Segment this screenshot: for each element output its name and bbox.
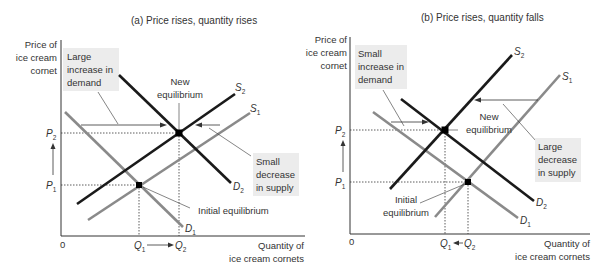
panel-a-supply-label-2: decrease	[256, 169, 295, 180]
panel-b-d1-label: D1	[520, 215, 531, 228]
panel-b-supply-label-3: in supply	[538, 167, 576, 178]
panel-a-demand-label-3: demand	[67, 77, 101, 88]
panel-b-y-label-1: Price of	[315, 34, 348, 45]
panel-a-supply-label-3: in supply	[256, 182, 294, 193]
panel-b-initial-equilibrium-point	[465, 179, 471, 185]
panel-b-initial-eq-label-1: Initial	[395, 194, 417, 205]
panel-a-initial-equilibrium-point	[136, 182, 142, 188]
panel-a-title: (a) Price rises, quantity rises	[131, 15, 257, 26]
panel-a-x-label-2: ice cream cornets	[229, 253, 304, 264]
panel-b-new-equilibrium-point	[442, 127, 449, 134]
panel-a-s1-label: S1	[250, 103, 261, 116]
panel-a-p2-label: P2	[46, 128, 57, 141]
panel-b-demand-label-3: demand	[358, 74, 392, 85]
panel-b-supply-label-1: Large	[538, 141, 562, 152]
panel-b-q1-label: Q1	[440, 238, 452, 251]
panel-b-x-label-1: Quantity of	[544, 238, 590, 249]
panel-b-x-label-2: ice cream cornets	[515, 251, 590, 262]
panel-a-q2-label: Q2	[175, 240, 187, 253]
panel-b-origin: 0	[349, 236, 354, 247]
panel-b-s1-label: S1	[562, 71, 573, 84]
panel-b-initial-eq-label-2: equilibrium	[383, 207, 429, 218]
panel-a-new-eq-label-2: equilibrium	[157, 89, 203, 100]
panel-a-y-label-1: Price of	[25, 39, 58, 50]
panel-a-initial-eq-label: Initial equilibrium	[198, 205, 269, 216]
panel-b: (b) Price rises, quantity falls Price of…	[306, 12, 591, 262]
panel-a-supply-leader	[209, 128, 251, 156]
panel-a-x-label-1: Quantity of	[258, 240, 304, 251]
panel-a-d1-label: D1	[185, 223, 196, 236]
panel-a: (a) Price rises, quantity rises Price of…	[16, 15, 305, 264]
panel-a-supply-label-1: Small	[256, 156, 280, 167]
panel-a-new-eq-label-1: New	[170, 76, 189, 87]
panel-b-y-label-2: ice cream	[306, 47, 347, 58]
panel-a-new-equilibrium-point	[176, 130, 183, 137]
panel-a-origin: 0	[60, 239, 65, 250]
arrowhead-icon	[160, 123, 167, 128]
panel-b-demand-label-1: Small	[358, 48, 382, 59]
arrowhead-icon	[453, 241, 459, 246]
panel-a-demand-leader	[98, 92, 118, 124]
panel-a-q1-label: Q1	[134, 240, 146, 253]
panel-b-p2-label: P2	[335, 125, 346, 138]
panel-b-supply-label-2: decrease	[538, 154, 577, 165]
panel-a-y-label-3: cornet	[31, 65, 58, 76]
arrowhead-icon	[168, 243, 174, 248]
panel-b-new-eq-label-2: equilibrium	[466, 124, 512, 135]
panel-a-s1-curve	[88, 113, 250, 220]
panel-a-s2-label: S2	[235, 82, 246, 95]
panel-b-d2-curve	[401, 99, 534, 201]
panel-a-y-label-2: ice cream	[16, 52, 57, 63]
supply-demand-diagram: (a) Price rises, quantity rises Price of…	[0, 0, 610, 274]
panel-b-demand-label-2: increase in	[358, 61, 404, 72]
arrowhead-icon	[51, 143, 56, 149]
panel-b-s2-label: S2	[514, 46, 525, 59]
panel-a-demand-label-2: increase in	[67, 64, 113, 75]
panel-a-initial-eq-leader	[143, 187, 190, 208]
panel-b-q2-label: Q2	[464, 238, 476, 251]
panel-b-p1-label: P1	[335, 177, 346, 190]
panel-b-d2-label: D2	[536, 197, 547, 210]
panel-b-new-eq-label-1: New	[479, 111, 498, 122]
panel-a-d2-label: D2	[233, 181, 244, 194]
panel-b-title: (b) Price rises, quantity falls	[421, 12, 544, 23]
panel-b-y-label-3: cornet	[321, 60, 348, 71]
arrowhead-icon	[195, 123, 202, 128]
arrowhead-icon	[341, 140, 346, 146]
arrowhead-icon	[474, 98, 481, 103]
panel-b-initial-eq-leader	[420, 184, 465, 203]
panel-a-p1-label: P1	[46, 180, 57, 193]
panel-a-demand-label-1: Large	[67, 51, 91, 62]
